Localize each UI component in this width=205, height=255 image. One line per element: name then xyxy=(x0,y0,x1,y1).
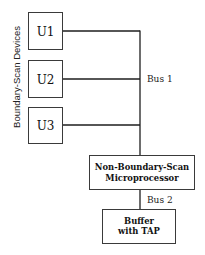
device-u1: U1 xyxy=(29,13,63,50)
buffer-label-line1: Buffer xyxy=(124,216,154,226)
microprocessor-box: Non-Boundary-Scan Microprocessor xyxy=(90,156,195,190)
device-u3: U3 xyxy=(29,108,63,144)
buffer-box: Buffer with TAP xyxy=(103,210,176,244)
device-u2: U2 xyxy=(29,61,63,98)
bus1-label: Bus 1 xyxy=(147,74,173,84)
boundary-scan-devices-label: Boundary-Scan Devices xyxy=(11,26,22,128)
microprocessor-label-line1: Non-Boundary-Scan xyxy=(95,162,189,172)
microprocessor-label-line2: Microprocessor xyxy=(105,173,179,183)
buffer-label-line2: with TAP xyxy=(117,226,161,236)
device-u3-label: U3 xyxy=(37,119,55,133)
device-u2-label: U2 xyxy=(37,73,55,87)
boundary-scan-diagram: Boundary-Scan Devices U1 U2 U3 Bus 1 Bus… xyxy=(0,0,205,255)
bus2-label: Bus 2 xyxy=(147,195,173,205)
device-u1-label: U1 xyxy=(37,25,55,39)
